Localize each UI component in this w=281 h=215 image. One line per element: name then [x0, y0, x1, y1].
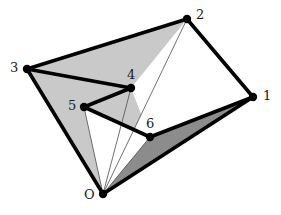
vertex-label-5: 5 [68, 99, 76, 112]
vertex-label-2: 2 [196, 8, 204, 21]
diagram-canvas [0, 0, 281, 215]
vertex-label-3: 3 [10, 61, 18, 74]
vertex-dot-O [99, 190, 107, 198]
geometric-figure: O123456 [0, 0, 281, 215]
vertex-dot-6 [146, 133, 154, 141]
vertex-dot-1 [249, 93, 257, 101]
vertex-dot-2 [183, 15, 191, 23]
vertex-dot-5 [80, 103, 88, 111]
vertex-label-1: 1 [263, 89, 271, 102]
vertex-dot-4 [127, 84, 135, 92]
vertex-dot-3 [23, 65, 31, 73]
shaded-faces-layer [27, 19, 253, 194]
vertex-label-O: O [84, 188, 95, 201]
vertex-label-4: 4 [127, 68, 135, 81]
vertex-label-6: 6 [146, 117, 154, 130]
